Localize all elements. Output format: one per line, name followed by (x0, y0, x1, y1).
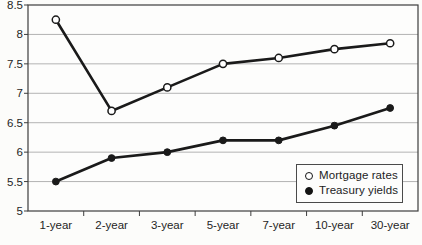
y-tick-label: 8 (17, 28, 23, 40)
filled-circle-marker (220, 137, 227, 144)
y-tick-label: 8.5 (7, 0, 23, 11)
legend-item-mortgage-rates: Mortgage rates (305, 168, 396, 183)
chart-figure: 8.587.576.565.551-year2-year3-year5-year… (0, 0, 422, 245)
open-circle-marker-icon (305, 172, 313, 180)
open-circle-marker (164, 84, 171, 91)
x-tick-label: 30-year (371, 219, 410, 231)
x-tick-label: 3-year (151, 219, 184, 231)
open-circle-marker (331, 46, 338, 53)
filled-circle-marker (331, 122, 338, 129)
y-tick-label: 5.5 (7, 176, 23, 188)
x-tick-label: 5-year (207, 219, 240, 231)
x-tick-label: 2-year (95, 219, 128, 231)
filled-circle-marker (387, 105, 394, 112)
y-tick-label: 6 (17, 146, 23, 158)
legend-label-mortgage-rates: Mortgage rates (319, 168, 398, 183)
filled-circle-marker (108, 155, 115, 162)
y-tick-label: 6.5 (7, 117, 23, 129)
x-tick-label: 10-year (315, 219, 354, 231)
open-circle-marker (108, 107, 115, 114)
filled-circle-marker (275, 137, 282, 144)
open-circle-marker (387, 40, 394, 47)
open-circle-marker (52, 16, 59, 23)
x-tick-label: 7-year (262, 219, 295, 231)
y-tick-label: 7 (17, 87, 23, 99)
filled-circle-marker-icon (305, 187, 313, 195)
x-tick-label: 1-year (40, 219, 73, 231)
y-tick-label: 7.5 (7, 58, 23, 70)
y-tick-label: 5 (17, 205, 23, 217)
legend-label-treasury-yields: Treasury yields (319, 183, 398, 198)
open-circle-marker (219, 60, 226, 67)
legend: Mortgage rates Treasury yields (296, 164, 403, 203)
legend-item-treasury-yields: Treasury yields (305, 183, 396, 198)
maturity-rates-line-chart: 8.587.576.565.551-year2-year3-year5-year… (0, 0, 422, 245)
open-circle-marker (275, 54, 282, 61)
filled-circle-marker (164, 149, 171, 156)
filled-circle-marker (52, 178, 59, 185)
